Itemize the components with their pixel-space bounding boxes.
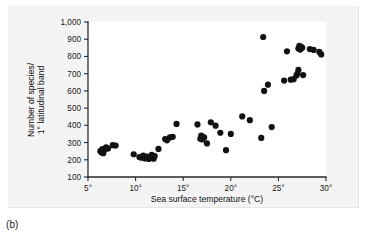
data-point	[194, 121, 200, 127]
data-point	[152, 153, 158, 159]
x-tick-label: 25°	[272, 184, 284, 193]
data-point	[281, 77, 287, 83]
y-tick-label: 100	[67, 173, 81, 182]
data-point	[131, 151, 137, 157]
data-point	[299, 45, 305, 51]
data-point	[212, 123, 218, 129]
scatter-plot: 1002003004005006007008009001,000 5°10°15…	[0, 0, 374, 240]
y-tick-label: 800	[67, 52, 81, 61]
x-tick-label: 20°	[225, 184, 237, 193]
y-axis-tick-labels: 1002003004005006007008009001,000	[61, 18, 82, 182]
data-point	[269, 124, 275, 130]
y-tick-label: 500	[67, 104, 81, 113]
data-point	[300, 72, 306, 78]
data-point	[173, 121, 179, 127]
data-point	[155, 146, 161, 152]
data-point	[258, 135, 264, 141]
y-tick-label: 900	[67, 35, 81, 44]
figure-container: 1002003004005006007008009001,000 5°10°15…	[0, 0, 374, 240]
data-point	[311, 47, 317, 53]
data-point	[318, 51, 324, 57]
y-axis-title: Number of species/ 1° latitudinal band	[26, 62, 46, 137]
data-point	[284, 48, 290, 54]
data-point	[113, 142, 119, 148]
data-point	[295, 67, 301, 73]
data-point	[201, 134, 207, 140]
y-tick-label: 700	[67, 70, 81, 79]
y-axis-title-line1: Number of species/	[26, 62, 36, 137]
data-point	[204, 140, 210, 146]
data-point	[239, 113, 245, 119]
data-point	[247, 117, 253, 123]
data-point	[223, 147, 229, 153]
data-point	[260, 34, 266, 40]
x-tick-label: 15°	[177, 184, 189, 193]
x-tick-label: 30°	[320, 184, 332, 193]
data-point	[170, 134, 176, 140]
y-tick-label: 400	[67, 121, 81, 130]
x-tick-label: 5°	[84, 184, 92, 193]
data-point	[217, 130, 223, 136]
y-axis-title-line2: 1° latitudinal band	[36, 66, 46, 135]
y-tick-label: 200	[67, 156, 81, 165]
x-axis-title: Sea surface temperature (°C)	[151, 194, 263, 204]
data-point	[261, 88, 267, 94]
y-tick-label: 300	[67, 139, 81, 148]
x-axis-tick-labels: 5°10°15°20°25°30°	[84, 184, 332, 193]
y-tick-label: 1,000	[61, 18, 82, 27]
data-point	[265, 82, 271, 88]
plot-canvas	[88, 22, 326, 176]
data-point	[228, 131, 234, 137]
chart-svg: 1002003004005006007008009001,000 5°10°15…	[0, 0, 374, 240]
figure-caption: (b)	[6, 219, 19, 230]
x-tick-label: 10°	[129, 184, 141, 193]
y-tick-label: 600	[67, 87, 81, 96]
